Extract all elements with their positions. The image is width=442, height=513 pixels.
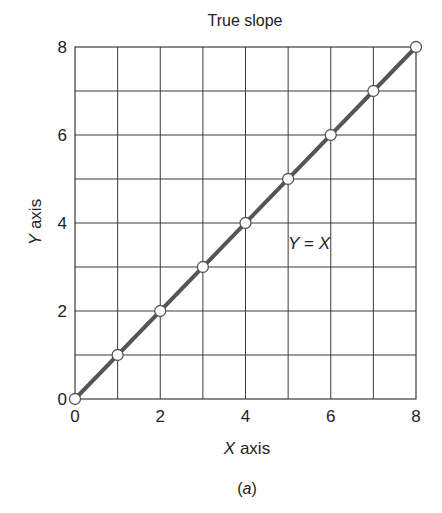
data-point-marker <box>155 306 166 317</box>
x-tick-label: 4 <box>241 407 250 426</box>
x-axis-label: X axis <box>223 439 270 458</box>
caption-letter: a <box>243 480 252 497</box>
y-axis-label: Y axis <box>26 199 45 245</box>
x-axis-word: axis <box>235 439 270 458</box>
data-point-marker <box>240 218 251 229</box>
data-point-marker <box>411 42 422 53</box>
chart-title: True slope <box>208 12 283 29</box>
x-axis-var: X <box>223 439 236 458</box>
data-point-marker <box>283 174 294 185</box>
x-tick-labels: 02468 <box>70 407 420 426</box>
y-tick-label: 4 <box>58 214 67 233</box>
data-point-marker <box>368 86 379 97</box>
annotation-label: Y = X <box>288 234 331 253</box>
data-point-marker <box>197 262 208 273</box>
x-tick-label: 0 <box>70 407 79 426</box>
chart: True slope 02468 02468 Y = X Y axis X ax… <box>0 0 442 513</box>
x-tick-label: 8 <box>411 407 420 426</box>
figure-caption: (a) <box>237 480 257 497</box>
data-point-marker <box>70 394 81 405</box>
y-tick-label: 0 <box>58 390 67 409</box>
y-tick-labels: 02468 <box>58 38 67 409</box>
caption-close: ) <box>251 480 256 497</box>
y-tick-label: 8 <box>58 38 67 57</box>
annotation-x: X <box>318 234 331 253</box>
y-axis-word: axis <box>26 199 45 234</box>
x-tick-label: 2 <box>156 407 165 426</box>
annotation-equals: = <box>299 234 318 253</box>
y-tick-label: 2 <box>58 302 67 321</box>
x-tick-label: 6 <box>326 407 335 426</box>
data-point-marker <box>112 350 123 361</box>
data-point-marker <box>325 130 336 141</box>
y-tick-label: 6 <box>58 126 67 145</box>
